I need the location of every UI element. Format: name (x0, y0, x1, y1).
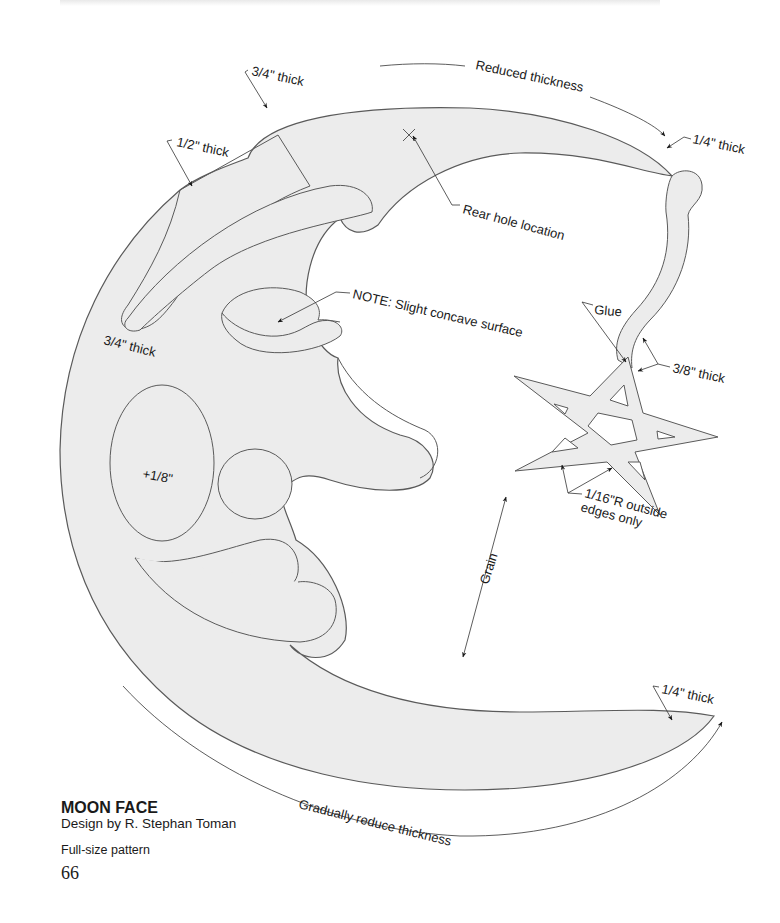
label-tip-thick-top: 1/4" thick (691, 131, 746, 157)
title-block: MOON FACE Design by R. Stephan Toman Ful… (61, 800, 236, 884)
label-glue: Glue (594, 302, 623, 319)
label-rear-hole: Rear hole location (461, 201, 566, 243)
leader-string-thick-1 (643, 338, 670, 367)
pattern-title: MOON FACE (61, 800, 236, 816)
label-upper-left-thick: 1/2" thick (175, 134, 230, 160)
cheek-oval (110, 385, 214, 541)
reduced-thickness-arc-left (380, 64, 465, 66)
nostril-circle (218, 449, 292, 519)
label-string-thick: 3/8" thick (671, 360, 726, 386)
pattern-subtitle: Full-size pattern (61, 843, 236, 857)
designer-byline: Design by R. Stephan Toman (61, 816, 236, 831)
label-grain: Grain (477, 551, 501, 586)
label-tip-thick-bottom: 1/4" thick (660, 681, 715, 707)
page-number: 66 (61, 863, 236, 884)
reduced-thickness-arc-right (590, 97, 665, 136)
label-top-left-thick: 3/4" thick (250, 63, 305, 89)
label-reduced-thickness: Reduced thickness (474, 57, 585, 95)
leader-radius-1 (562, 465, 582, 494)
hanging-string (617, 171, 703, 368)
label-note: NOTE: Slight concave surface (351, 286, 524, 340)
leader-tip-thick-top (667, 137, 691, 148)
label-gradually-reduce: Gradually reduce thickness (297, 796, 453, 849)
leader-string-thick-2 (638, 364, 658, 371)
moon-face-pattern-drawing: 3/4" thick 1/2" thick Reduced thickness … (0, 0, 780, 923)
